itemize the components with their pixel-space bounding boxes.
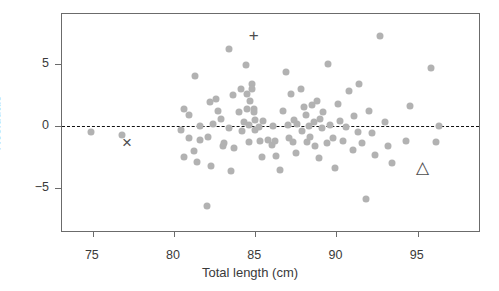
data-point <box>339 137 346 144</box>
y-tick-label: 5 <box>9 56 49 70</box>
y-tick-label: −5 <box>9 180 49 194</box>
data-point <box>356 80 363 87</box>
data-point <box>435 122 442 129</box>
data-point <box>252 116 259 123</box>
data-point <box>406 103 413 110</box>
data-point <box>349 146 356 153</box>
data-point <box>185 111 192 118</box>
data-point <box>299 127 306 134</box>
data-point <box>239 127 246 134</box>
data-point <box>229 91 236 98</box>
data-point <box>236 109 243 116</box>
data-point <box>210 120 217 127</box>
data-point <box>273 152 280 159</box>
data-point <box>326 121 333 128</box>
data-point <box>377 33 384 40</box>
data-point <box>260 118 267 125</box>
data-point <box>276 166 283 173</box>
x-tick <box>255 231 256 237</box>
data-point <box>214 108 221 115</box>
data-point <box>221 140 228 147</box>
data-point <box>249 85 256 92</box>
y-tick <box>55 64 62 65</box>
data-point <box>362 196 369 203</box>
scatter-plot-figure: Residuals Total length (cm) 50−5 7580859… <box>0 0 499 291</box>
data-point <box>271 137 278 144</box>
data-point <box>88 129 95 136</box>
x-tick-label: 90 <box>315 248 355 262</box>
data-point <box>190 147 197 154</box>
plot-area: +×△ <box>61 13 480 232</box>
data-point <box>427 64 434 71</box>
data-point <box>312 142 319 149</box>
data-point <box>317 115 324 122</box>
x-tick-label: 85 <box>234 248 274 262</box>
data-point <box>255 124 262 131</box>
data-point <box>323 140 330 147</box>
x-tick-label: 80 <box>153 248 193 262</box>
data-point <box>336 118 343 125</box>
data-point <box>185 135 192 142</box>
data-point <box>245 139 252 146</box>
data-point <box>289 139 296 146</box>
x-axis-label: Total length (cm) <box>202 265 298 280</box>
data-point <box>180 154 187 161</box>
cross-marker: × <box>122 134 132 151</box>
data-point <box>354 129 361 136</box>
data-point <box>372 151 379 158</box>
triangle-marker: △ <box>416 159 429 176</box>
data-point <box>287 90 294 97</box>
y-axis-label: Residuals <box>0 96 3 151</box>
data-point <box>315 155 322 162</box>
data-point <box>197 122 204 129</box>
y-tick <box>55 188 62 189</box>
data-points-layer <box>62 14 479 231</box>
x-tick <box>418 231 419 237</box>
data-point <box>258 154 265 161</box>
data-point <box>330 135 337 142</box>
data-point <box>359 140 366 147</box>
data-point <box>257 137 264 144</box>
data-point <box>297 85 304 92</box>
data-point <box>331 165 338 172</box>
data-point <box>302 111 309 118</box>
data-point <box>388 160 395 167</box>
data-point <box>226 45 233 52</box>
data-point <box>320 109 327 116</box>
data-point <box>231 145 238 152</box>
data-point <box>300 104 307 111</box>
data-point <box>213 95 220 102</box>
data-point <box>177 126 184 133</box>
data-point <box>197 136 204 143</box>
data-point <box>369 130 376 137</box>
y-tick <box>55 126 62 127</box>
data-point <box>226 125 233 132</box>
x-tick <box>336 231 337 237</box>
data-point <box>270 122 277 129</box>
data-point <box>307 134 314 141</box>
data-point <box>208 162 215 169</box>
data-point <box>318 125 325 132</box>
data-point <box>203 202 210 209</box>
y-tick-label: 0 <box>9 118 49 132</box>
data-point <box>294 120 301 127</box>
data-point <box>335 100 342 107</box>
data-point <box>284 121 291 128</box>
data-point <box>403 137 410 144</box>
data-point <box>351 113 358 120</box>
x-tick-label: 75 <box>72 248 112 262</box>
data-point <box>205 134 212 141</box>
data-point <box>292 150 299 157</box>
data-point <box>385 142 392 149</box>
x-tick <box>174 231 175 237</box>
x-tick <box>93 231 94 237</box>
data-point <box>193 159 200 166</box>
data-point <box>365 108 372 115</box>
data-point <box>227 167 234 174</box>
data-point <box>250 109 257 116</box>
data-point <box>247 98 254 105</box>
data-point <box>279 108 286 115</box>
plus-marker: + <box>249 27 259 44</box>
data-point <box>346 88 353 95</box>
data-point <box>192 73 199 80</box>
